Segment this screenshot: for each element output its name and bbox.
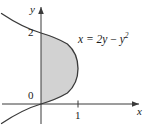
parabola-region-figure: y x 2 0 1 x = 2y − y2 (0, 0, 150, 130)
origin-label: 0 (28, 90, 34, 101)
y-tick-label-2: 2 (28, 27, 34, 38)
shaded-region (41, 33, 78, 104)
equation-exponent: 2 (125, 31, 129, 40)
x-axis-label: x (137, 106, 142, 117)
equation-operator: − (107, 33, 119, 45)
y-axis-arrowhead (38, 7, 44, 14)
x-tick-label-1: 1 (75, 110, 81, 121)
equation-lhs: x = 2y (78, 33, 107, 45)
curve-equation-label: x = 2y − y2 (78, 32, 129, 45)
y-axis-label: y (30, 4, 35, 15)
